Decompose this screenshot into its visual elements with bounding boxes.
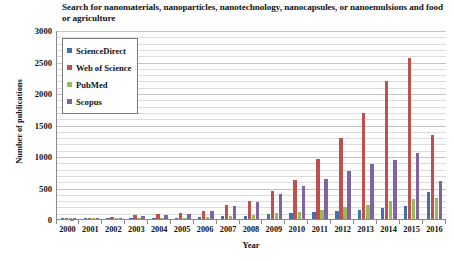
bar [312, 212, 315, 219]
bar [248, 201, 251, 219]
x-axis-tick-marks [56, 220, 446, 224]
bar [244, 216, 247, 219]
bar [252, 215, 255, 219]
legend-swatch-icon [67, 48, 72, 53]
x-axis-tick-mark [354, 220, 377, 224]
x-axis-tick-mark [400, 220, 423, 224]
bar [279, 194, 282, 219]
bar [137, 218, 140, 219]
bar [183, 218, 186, 219]
x-axis-tick-label: 2010 [285, 225, 308, 234]
y-axis-tick-label: 500 [18, 184, 52, 194]
x-axis-tick-mark [102, 220, 125, 224]
legend-label: ScienceDirect [76, 46, 126, 56]
bar [156, 214, 159, 219]
bar [320, 210, 323, 219]
bar [275, 213, 278, 219]
bar-group [309, 31, 332, 219]
bar-group [240, 31, 263, 219]
x-axis-tick-label: 2006 [194, 225, 217, 234]
x-axis-tick-mark [171, 220, 194, 224]
legend-item[interactable]: Scopus [67, 93, 131, 110]
bar [106, 218, 109, 219]
legend-swatch-icon [67, 65, 72, 70]
legend-item[interactable]: Web of Science [67, 59, 131, 76]
legend-item[interactable]: ScienceDirect [67, 42, 131, 59]
legend-swatch-icon [67, 99, 72, 104]
x-axis-tick-label: 2005 [171, 225, 194, 234]
bar [335, 211, 338, 219]
bar [267, 214, 270, 219]
bar [389, 201, 392, 219]
bar-group [194, 31, 217, 219]
bar [256, 202, 259, 219]
x-axis-tick-label: 2016 [423, 225, 446, 234]
bar [408, 58, 411, 219]
bar [393, 160, 396, 219]
bar [110, 217, 113, 219]
bar [115, 218, 118, 219]
bar [84, 218, 87, 219]
x-axis-tick-mark [423, 220, 446, 224]
bar [339, 138, 342, 219]
bar [293, 180, 296, 219]
bar [198, 217, 201, 219]
x-axis-tick-mark [308, 220, 331, 224]
bar [233, 206, 236, 219]
bar [73, 218, 76, 219]
x-axis-tick-label: 2011 [308, 225, 331, 234]
x-axis-tick-mark [285, 220, 308, 224]
bar [152, 218, 155, 219]
bar [316, 159, 319, 219]
bar [202, 211, 205, 219]
bar [160, 218, 163, 219]
x-axis-tick-mark [217, 220, 240, 224]
bar [129, 218, 132, 219]
y-axis-tick-label: 3000 [18, 26, 52, 36]
x-axis-tick-mark [56, 220, 79, 224]
chart-figure: Search for nanomaterials, nanoparticles,… [0, 0, 454, 261]
y-axis-tick-label: 2000 [18, 89, 52, 99]
bar [347, 171, 350, 219]
x-axis-tick-mark [377, 220, 400, 224]
x-axis-tick-label: 2004 [148, 225, 171, 234]
x-axis-tick-mark [125, 220, 148, 224]
x-axis-tick-label: 2003 [125, 225, 148, 234]
bar [416, 153, 419, 219]
bar [65, 218, 68, 219]
chart-legend: ScienceDirectWeb of SciencePubMedScopus [62, 38, 138, 114]
legend-swatch-icon [67, 82, 72, 87]
bar [187, 214, 190, 219]
bar-group [423, 31, 446, 219]
y-axis-tick-label: 1500 [18, 121, 52, 131]
bar [119, 218, 122, 219]
x-axis-tick-label: 2001 [79, 225, 102, 234]
bar [427, 192, 430, 219]
bar-group [149, 31, 172, 219]
x-axis-tick-label: 2015 [400, 225, 423, 234]
bar [370, 164, 373, 219]
x-axis-tick-label: 2013 [354, 225, 377, 234]
bar-group [217, 31, 240, 219]
bar [362, 113, 365, 219]
x-axis-tick-label: 2002 [102, 225, 125, 234]
y-axis-tick-label: 1000 [18, 152, 52, 162]
x-axis-tick-mark [194, 220, 217, 224]
legend-label: Scopus [76, 97, 102, 107]
bar [61, 218, 64, 219]
bar [221, 216, 224, 219]
bar-group [377, 31, 400, 219]
bar [141, 216, 144, 219]
bar-group [263, 31, 286, 219]
bar [412, 199, 415, 219]
bar [96, 218, 99, 219]
legend-item[interactable]: PubMed [67, 76, 131, 93]
x-axis-tick-mark [148, 220, 171, 224]
x-axis-tick-mark [262, 220, 285, 224]
bar-group [354, 31, 377, 219]
y-axis-tick-label: 2500 [18, 58, 52, 68]
bar-group [286, 31, 309, 219]
bar [324, 179, 327, 219]
bar [206, 217, 209, 219]
x-axis-tick-label: 2014 [377, 225, 400, 234]
